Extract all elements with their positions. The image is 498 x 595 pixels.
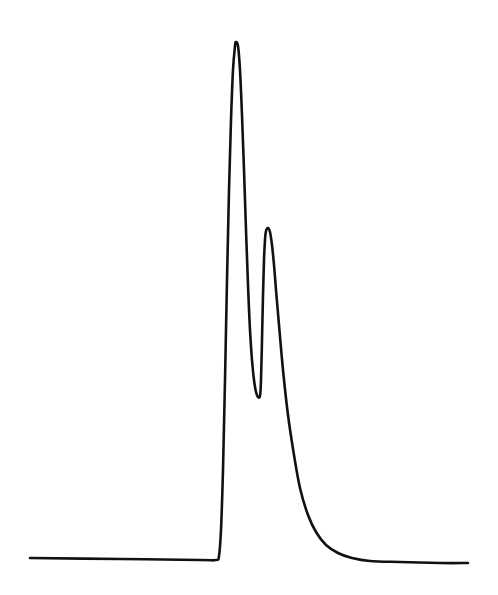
- trace-line: [30, 42, 468, 563]
- chromatogram-plot: [0, 0, 498, 595]
